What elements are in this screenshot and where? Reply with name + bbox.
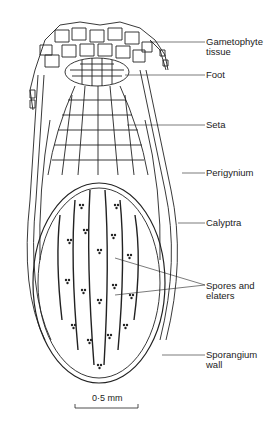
sporophyte-diagram: Gametophyte tissue Foot Seta Perigynium … xyxy=(0,0,278,429)
label-line: wall xyxy=(206,360,257,370)
seta-drawing xyxy=(48,86,148,175)
foot-drawing xyxy=(65,58,129,86)
label-foot: Foot xyxy=(206,70,225,80)
label-calyptra: Calyptra xyxy=(206,218,241,228)
label-sporangium-wall: Sporangium wall xyxy=(206,350,257,370)
gametophyte-tissue-drawing xyxy=(30,22,168,110)
label-perigynium: Perigynium xyxy=(206,168,254,178)
elaters-drawing xyxy=(58,190,138,365)
label-line: tissue xyxy=(206,47,263,57)
label-gametophyte-tissue: Gametophyte tissue xyxy=(206,37,263,57)
label-spores-and-elaters: Spores and elaters xyxy=(206,281,255,301)
scale-bar xyxy=(75,404,138,408)
label-line: elaters xyxy=(206,291,255,301)
label-seta: Seta xyxy=(206,120,226,130)
spores-drawing xyxy=(65,204,134,369)
sporangium-wall-drawing xyxy=(33,183,165,383)
scale-bar-label: 0·5 mm xyxy=(92,393,123,403)
perigynium-drawing xyxy=(27,70,177,340)
leader-lines xyxy=(115,42,205,355)
